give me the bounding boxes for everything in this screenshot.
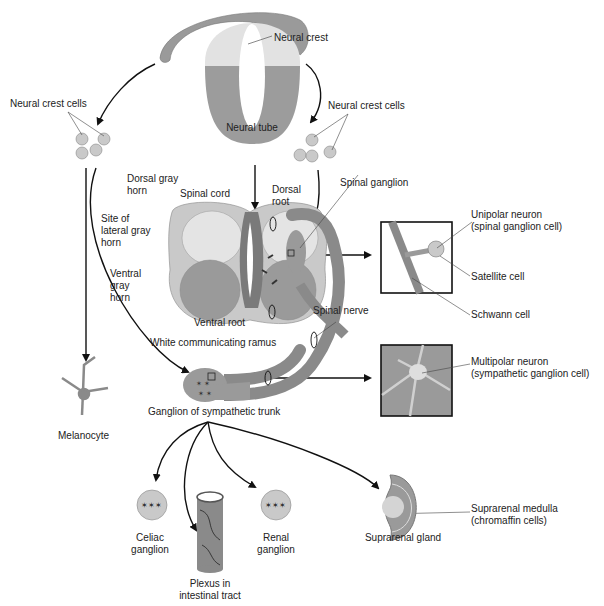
label-spinal-nerve: Spinal nerve <box>313 305 369 317</box>
label-ventral-root: Ventral root <box>194 317 245 329</box>
label-schwann-cell: Schwann cell <box>471 309 530 321</box>
label-celiac-ganglion: Celiac ganglion <box>131 532 169 556</box>
melanocyte-illustration <box>62 357 108 415</box>
label-neural-crest-cells-left: Neural crest cells <box>10 98 87 110</box>
svg-text:✶✶✶: ✶✶✶ <box>141 501 162 510</box>
unipolar-neuron-inset <box>381 222 452 293</box>
label-neural-tube: Neural tube <box>226 122 278 134</box>
label-plexus-in-intestinal-tract: Plexus in intestinal tract <box>179 578 241 602</box>
svg-text:✶✶✶: ✶✶✶ <box>265 501 286 510</box>
label-neural-crest-cells-right: Neural crest cells <box>328 100 405 112</box>
label-neural-crest: Neural crest <box>274 32 328 44</box>
label-dorsal-gray-horn: Dorsal gray horn <box>127 173 178 197</box>
label-dorsal-root: Dorsal root <box>272 184 301 208</box>
neural-crest-cells-right <box>294 114 348 162</box>
sympathetic-ganglion: ✶ ✶ ✶ ✶ <box>183 368 250 402</box>
intestinal-tract <box>197 492 223 573</box>
label-spinal-cord: Spinal cord <box>180 188 230 200</box>
label-multipolar-neuron: Multipolar neuron (sympathetic ganglion … <box>471 356 589 380</box>
label-suprarenal-gland: Suprarenal gland <box>365 532 441 544</box>
label-unipolar-neuron: Unipolar neuron (spinal ganglion cell) <box>471 209 562 233</box>
spinal-ganglion-shape <box>286 230 306 274</box>
label-satellite-cell: Satellite cell <box>471 271 524 283</box>
label-site-of-lateral-gray-horn: Site of lateral gray horn <box>101 213 150 249</box>
neural-crest-cells-left <box>68 112 110 159</box>
celiac-ganglion: ✶✶✶ <box>137 490 167 520</box>
label-suprarenal-medulla: Suprarenal medulla (chromaffin cells) <box>471 503 558 527</box>
label-ganglion-of-sympathetic-trunk: Ganglion of sympathetic trunk <box>148 406 280 418</box>
multipolar-neuron-inset <box>381 345 452 416</box>
suprarenal-gland <box>382 475 416 540</box>
label-white-communicating-ramus: White communicating ramus <box>150 337 276 349</box>
renal-ganglion: ✶✶✶ <box>261 490 291 520</box>
svg-text:✶ ✶: ✶ ✶ <box>198 390 212 397</box>
label-ventral-gray-horn: Ventral gray horn <box>110 268 141 304</box>
label-spinal-ganglion: Spinal ganglion <box>340 177 408 189</box>
svg-text:✶ ✶: ✶ ✶ <box>196 380 210 387</box>
label-renal-ganglion: Renal ganglion <box>257 532 295 556</box>
label-melanocyte: Melanocyte <box>58 430 109 442</box>
